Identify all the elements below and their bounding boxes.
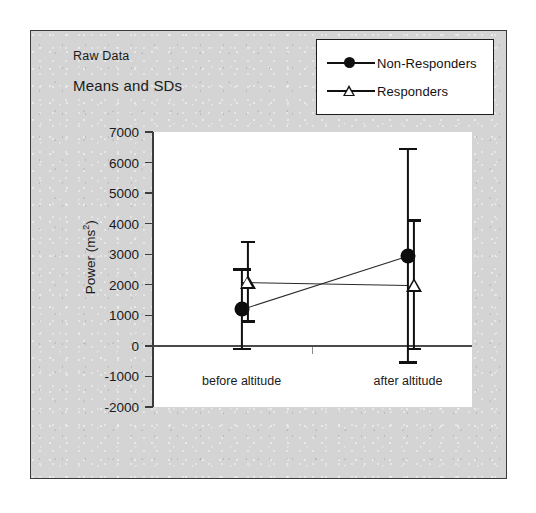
error-bar-cap: [407, 219, 421, 222]
y-axis-tick-label: 6000: [109, 155, 139, 170]
y-axis-tick-label: 4000: [109, 216, 139, 231]
y-axis-tick-label: 2000: [109, 277, 139, 292]
error-bar-cap: [399, 148, 417, 151]
plot-area: [152, 132, 472, 407]
y-axis-tick: [145, 192, 153, 193]
figure-frame: Raw Data Means and SDs Non-Responders Re…: [30, 30, 507, 479]
y-axis-tick: [145, 315, 153, 316]
y-axis-tick: [145, 131, 153, 132]
filled-circle-icon: [325, 54, 377, 72]
y-axis-tick-label: 0: [131, 338, 139, 353]
legend-item-responders: Responders: [325, 77, 485, 105]
open-triangle-marker: [240, 275, 256, 289]
legend-item-non-responders: Non-Responders: [325, 49, 485, 77]
open-triangle-marker: [406, 278, 422, 292]
y-axis-line: [152, 132, 154, 407]
error-bar-cap: [233, 348, 251, 351]
error-bar-cap: [399, 361, 417, 364]
error-bar-cap: [241, 241, 255, 244]
y-axis-tick-label: 1000: [109, 308, 139, 323]
x-axis-category-label: after altitude: [374, 374, 443, 388]
y-axis-tick-label: 7000: [109, 125, 139, 140]
y-axis-tick-label: -1000: [104, 369, 139, 384]
open-triangle-icon: [325, 82, 377, 100]
error-bar-cap: [407, 348, 421, 351]
y-axis-title: Power (ms2): [81, 177, 98, 337]
legend-label-non-responders: Non-Responders: [377, 56, 477, 71]
y-axis-tick-label: -2000: [104, 400, 139, 415]
y-axis-tick: [145, 162, 153, 163]
figure-title-primary: Raw Data: [73, 49, 129, 63]
y-axis-tick: [145, 376, 153, 377]
y-axis-tick: [145, 223, 153, 224]
y-axis-tick: [145, 406, 153, 407]
legend-label-responders: Responders: [377, 84, 448, 99]
plot-shell: 70006000500040003000200010000-1000-2000: [127, 132, 472, 407]
figure-title-secondary: Means and SDs: [73, 77, 182, 94]
y-axis-tick-label: 3000: [109, 247, 139, 262]
y-axis-tick: [145, 284, 153, 285]
chart-legend: Non-Responders Responders: [316, 39, 494, 115]
y-axis-tick: [145, 254, 153, 255]
y-axis-tick: [145, 345, 153, 346]
y-axis-title-text: Power (ms2): [82, 220, 97, 294]
error-bar-cap: [241, 320, 255, 323]
x-axis-category-label: before altitude: [202, 374, 281, 388]
y-axis-tick-label: 5000: [109, 186, 139, 201]
x-axis-mid-tick: [312, 347, 313, 354]
